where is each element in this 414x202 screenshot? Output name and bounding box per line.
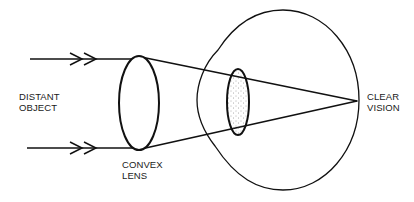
label-line: OBJECT [19, 102, 60, 113]
eye-lens [227, 69, 249, 135]
label-line: LENS [122, 170, 163, 181]
incoming-ray-bottom [27, 142, 135, 154]
label-line: CONVEX [122, 159, 163, 170]
eyeball-outline [197, 10, 359, 190]
label-line: CLEAR [367, 91, 400, 102]
label-convex-lens: CONVEX LENS [122, 159, 163, 181]
focal-point [356, 100, 358, 102]
label-clear-vision: CLEAR VISION [367, 91, 400, 113]
convex-lens [119, 56, 159, 150]
incoming-ray-top [30, 53, 135, 65]
vision-diagram [0, 0, 414, 202]
label-distant-object: DISTANT OBJECT [19, 91, 60, 113]
label-line: VISION [367, 102, 400, 113]
label-line: DISTANT [19, 91, 60, 102]
